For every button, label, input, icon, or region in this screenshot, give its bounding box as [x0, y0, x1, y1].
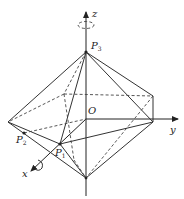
- rotation-x-icon: [35, 160, 43, 170]
- p2-label: P2: [15, 134, 27, 146]
- octahedron-diagram: z y x O P3 P1 P2: [0, 0, 184, 199]
- p2-dot: [22, 131, 25, 134]
- p3-dot: [84, 50, 87, 53]
- y-axis-label: y: [169, 124, 176, 135]
- p3-label: P3: [90, 40, 102, 52]
- octahedron-solid-edges: [8, 52, 153, 178]
- bottom-dot: [85, 177, 88, 180]
- p1-dot: [58, 142, 61, 145]
- z-axis-label: z: [91, 8, 98, 19]
- x-axis-label: x: [22, 168, 28, 179]
- origin-label: O: [88, 105, 96, 116]
